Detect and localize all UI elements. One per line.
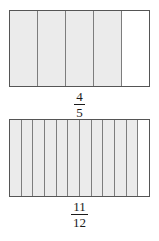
fraction-bar-diagram [9, 119, 150, 197]
bar-cell-shaded [68, 120, 80, 196]
fraction-bars-page: 4 5 11 12 [0, 0, 159, 241]
bar-cell-shaded [22, 120, 34, 196]
fraction-numerator: 4 [74, 90, 85, 104]
bar-cell-shaded [80, 120, 92, 196]
fraction-bar-diagram [9, 10, 150, 87]
bar-cell-shaded [127, 120, 139, 196]
bar-cell-shaded [10, 120, 22, 196]
bar-cell-unshaded [138, 120, 149, 196]
fraction-label: 11 12 [0, 200, 159, 229]
fraction-11-12: 11 12 [71, 200, 88, 229]
fraction-denominator: 5 [74, 105, 85, 119]
fraction-4-5: 4 5 [74, 90, 85, 119]
fraction-denominator: 12 [71, 215, 88, 229]
fraction-figure-4-5: 4 5 [0, 10, 159, 119]
bar-cell-shaded [10, 11, 38, 86]
bar-cell-shaded [38, 11, 66, 86]
bar-cell-shaded [92, 120, 104, 196]
bar-cell-shaded [45, 120, 57, 196]
bar-cell-unshaded [122, 11, 149, 86]
fraction-numerator: 11 [71, 200, 88, 214]
bar-cell-shaded [66, 11, 94, 86]
bar-cell-shaded [103, 120, 115, 196]
fraction-figure-11-12: 11 12 [0, 119, 159, 229]
bar-cell-shaded [115, 120, 127, 196]
fraction-label: 4 5 [0, 90, 159, 119]
bar-cell-shaded [33, 120, 45, 196]
bar-cell-shaded [57, 120, 69, 196]
bar-cell-shaded [94, 11, 122, 86]
